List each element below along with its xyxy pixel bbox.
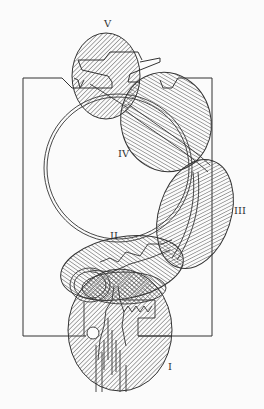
label-I: I (168, 361, 172, 372)
region-I (68, 269, 172, 392)
label-V: V (103, 18, 112, 29)
diagram: V IV III II I (0, 0, 264, 409)
label-IV: IV (118, 148, 130, 159)
label-II: II (110, 230, 118, 241)
label-III: III (234, 205, 246, 216)
